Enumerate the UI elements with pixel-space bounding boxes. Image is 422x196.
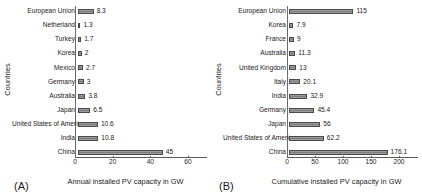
bar-zone: 10.6 [78,119,207,130]
bar-row: Germany45.4 [223,105,418,116]
category-label: Korea [12,50,78,57]
x-tick-mark [75,156,76,158]
bar-value-label: 2.7 [83,65,95,72]
x-tick-mark [343,156,344,158]
bar-value-label: 8.3 [94,8,106,15]
x-tick-mark [113,156,114,158]
category-label: European Union [12,8,78,15]
bar-row: India32.9 [223,91,418,102]
bar-rows-a: European Union8.3Netherland1.3Turkey1.7K… [12,6,207,158]
x-tick-label: 0 [73,159,77,166]
x-tick-label: 150 [365,159,376,166]
x-tick-mark [371,156,372,158]
bar-value-label: 3 [84,79,91,86]
bar-zone: 45.4 [289,105,418,116]
category-label: United States of America [223,135,289,142]
category-label: Italy [223,79,289,86]
bar-row: Australia3.8 [12,91,207,102]
bar-value-label: 6.5 [90,107,102,114]
category-label: Australia [12,93,78,100]
x-axis-ticks-b: 050100150200 [287,159,418,168]
bar-row: India10.8 [12,133,207,144]
x-tick-mark [188,156,189,158]
bar-row: United Kingdom13 [223,62,418,73]
bar-row: Japan6.5 [12,105,207,116]
bar [78,136,98,141]
bar-value-label: 2 [82,50,89,57]
bar-value-label: 45.4 [314,107,330,114]
bar [289,122,320,127]
bar-value-label: 20.1 [300,79,316,86]
bar-row: Italy20.1 [223,76,418,87]
x-tick-mark [399,156,400,158]
figure: Countries European Union8.3Netherland1.3… [0,0,422,196]
bar-row: European Union115 [223,6,418,17]
bar-value-label: 7.9 [293,22,305,29]
bar-zone: 9 [289,34,418,45]
bar-zone: 1.7 [78,34,207,45]
bar-value-label: 32.9 [307,93,323,100]
bar-value-label: 56 [320,121,330,128]
bar [289,94,307,99]
bar-row: Korea2 [12,48,207,59]
bar [289,9,353,14]
bar-row: Germany3 [12,76,207,87]
bar-zone: 13 [289,62,418,73]
bar-value-label: 3.8 [85,93,97,100]
category-label: European Union [223,8,289,15]
bar [78,94,85,99]
bar-zone: 1.3 [78,20,207,31]
category-label: Germany [12,79,78,86]
category-label: Australia [223,50,289,57]
bar-zone: 62.2 [289,133,418,144]
bar-value-label: 10.8 [98,135,114,142]
x-axis-ticks-a: 0204060 [75,159,207,168]
category-label: United States of America [12,121,78,128]
bar-row: European Union8.3 [12,6,207,17]
category-label: Netherland [12,22,78,29]
bar-zone: 8.3 [78,6,207,17]
bar [289,65,296,70]
bar [289,79,300,84]
bar-row: Turkey1.7 [12,34,207,45]
bar-zone: 11.3 [289,48,418,59]
bar-zone: 7.9 [289,20,418,31]
category-label: Japan [12,107,78,114]
bar [289,136,324,141]
bar-value-label: 115 [353,8,367,15]
x-tick-label: 100 [337,159,348,166]
x-tick-label: 0 [285,159,289,166]
bar-row: Japan56 [223,119,418,130]
panel-label-a: (A) [14,180,29,192]
bar-zone: 56 [289,119,418,130]
bar-value-label: 176.1 [388,149,408,156]
bar-row: France9 [223,34,418,45]
bar [78,108,90,113]
bar-value-label: 11.3 [295,50,310,57]
bar-value-label: 1.7 [81,36,93,43]
x-axis-title-a: Annual installed PV capacity in GW [40,177,211,186]
x-tick-mark [150,156,151,158]
bar-value-label: 1.3 [80,22,92,29]
category-label: United Kingdom [223,65,289,72]
bar-value-label: 9 [294,36,301,43]
bar [78,9,94,14]
chart-panel-a: Countries European Union8.3Netherland1.3… [0,0,211,196]
y-axis-title-b-text: Countries [214,63,223,96]
x-axis-title-b: Cumulative installed PV capacity in GW [251,177,422,186]
bar-zone: 2 [78,48,207,59]
x-tick-label: 40 [147,159,154,166]
category-label: Germany [223,107,289,114]
category-label: Korea [223,22,289,29]
x-tick-label: 200 [393,159,404,166]
panel-label-b: (B) [219,180,234,192]
bar-row: United States of America10.6 [12,119,207,130]
bar-zone: 115 [289,6,418,17]
category-label: India [12,135,78,142]
category-label: Japan [223,121,289,128]
bar-zone: 6.5 [78,105,207,116]
bar [289,150,388,155]
bar-zone: 3 [78,76,207,87]
bar [78,122,98,127]
x-tick-label: 50 [311,159,318,166]
